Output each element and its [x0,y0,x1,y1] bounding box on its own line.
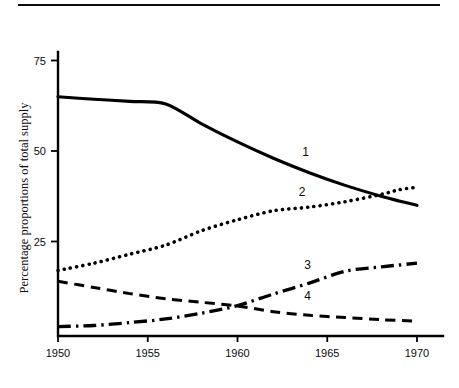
series-curve-2 [58,187,417,270]
y-tick-label: 25 [34,236,46,248]
series-curve-3 [58,263,417,326]
y-axis-title: Percentage proportions of total supply [17,102,31,294]
series-label-2: 2 [299,185,306,199]
series-curve-1 [58,97,417,206]
chart-tick-marks [51,61,417,343]
x-axis-tick-labels: 19501955196019651970 [46,347,429,359]
x-tick-label: 1970 [405,347,429,359]
chart-figure: 19501955196019651970 255075 Percentage p… [0,0,459,388]
series-label-4: 4 [304,289,311,303]
y-tick-label: 50 [34,145,46,157]
series-label-3: 3 [304,258,311,272]
y-axis-tick-labels: 255075 [34,55,46,248]
series-label-1: 1 [302,145,309,159]
chart-axes [58,52,443,336]
y-tick-label: 75 [34,55,46,67]
x-tick-label: 1965 [315,347,339,359]
series-curve-4 [58,281,417,321]
chart-series-curves [58,97,417,327]
x-tick-label: 1960 [225,347,249,359]
x-tick-label: 1950 [46,347,70,359]
y-axis-title-text: Percentage proportions of total supply [17,102,31,294]
line-chart-plot: 19501955196019651970 255075 Percentage p… [0,0,459,388]
x-tick-label: 1955 [136,347,160,359]
